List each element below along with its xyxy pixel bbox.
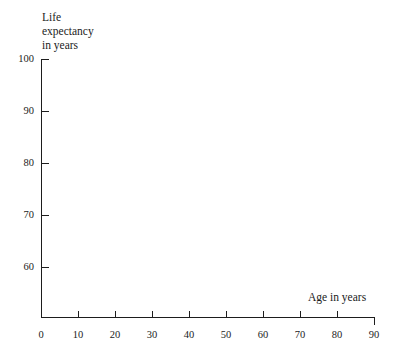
life-expectancy-chart: Life expectancy in years Age in years 10… (0, 0, 395, 351)
x-tick-label: 0 (26, 324, 56, 342)
x-tick-mark (300, 311, 301, 318)
x-tick-label: 80 (322, 324, 352, 342)
x-tick-mark (263, 311, 264, 318)
x-tick-label-text: 40 (184, 329, 195, 340)
y-tick-mark (42, 59, 49, 60)
x-tick-mark (189, 311, 190, 318)
y-axis-title-line-2: expectancy (42, 24, 126, 38)
y-tick-label: 70 (0, 210, 34, 221)
x-tick-mark (115, 311, 116, 318)
y-tick-label-text: 70 (0, 210, 34, 221)
x-axis-line (41, 317, 375, 318)
x-tick-label: 40 (174, 324, 204, 342)
y-tick-label: 100 (0, 54, 34, 65)
x-tick-label: 30 (137, 324, 167, 342)
y-tick-mark (42, 163, 49, 164)
y-axis-title-line-3: in years (42, 38, 126, 52)
plot-area (42, 59, 375, 317)
x-tick-label: 60 (248, 324, 278, 342)
y-tick-label-text: 100 (0, 54, 34, 65)
y-tick-mark (42, 215, 49, 216)
x-tick-label-text: 70 (295, 329, 306, 340)
x-tick-label-text: 20 (110, 329, 121, 340)
x-tick-label: 50 (211, 324, 241, 342)
x-tick-label: 20 (100, 324, 130, 342)
x-tick-mark (226, 311, 227, 318)
x-tick-mark (78, 311, 79, 318)
x-tick-label: 90 (359, 324, 389, 342)
x-tick-label: 70 (285, 324, 315, 342)
y-tick-mark (42, 267, 49, 268)
x-tick-label-text: 90 (369, 329, 380, 340)
x-tick-label-text: 0 (38, 329, 43, 340)
x-tick-label-text: 60 (258, 329, 269, 340)
y-axis-title-line-1: Life (42, 10, 126, 24)
y-tick-label-text: 90 (0, 106, 34, 117)
x-tick-label: 10 (63, 324, 93, 342)
y-axis-title: Life expectancy in years (42, 10, 126, 53)
y-tick-label: 60 (0, 262, 34, 273)
y-tick-label: 80 (0, 158, 34, 169)
y-tick-label: 90 (0, 106, 34, 117)
x-tick-mark (152, 311, 153, 318)
x-tick-label-text: 80 (332, 329, 343, 340)
y-tick-label-text: 60 (0, 262, 34, 273)
x-tick-label-text: 30 (147, 329, 158, 340)
x-tick-label-text: 50 (221, 329, 232, 340)
y-tick-mark (42, 111, 49, 112)
x-tick-mark (337, 311, 338, 318)
y-tick-label-text: 80 (0, 158, 34, 169)
y-axis-line (41, 59, 42, 318)
x-tick-label-text: 10 (73, 329, 84, 340)
